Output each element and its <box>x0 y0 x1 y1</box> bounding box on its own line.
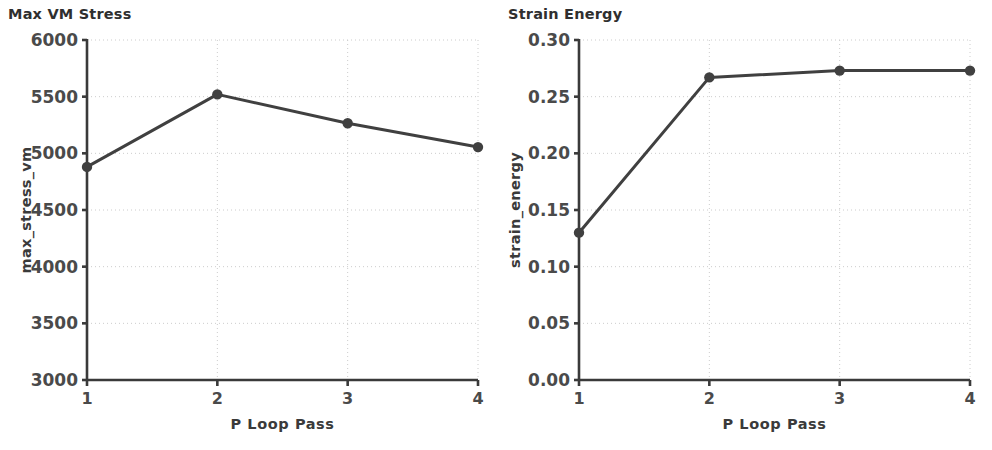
y-axis-tick-label: 3500 <box>31 313 78 333</box>
y-axis-tick-label: 3000 <box>31 370 78 390</box>
plot-area-right: 0.000.050.100.150.200.250.301234P Loop P… <box>579 40 970 380</box>
y-axis-tick-label: 0.15 <box>528 200 570 220</box>
data-point-marker <box>704 72 714 82</box>
data-series-line <box>87 94 478 167</box>
chart-title-right: Strain Energy <box>508 6 622 22</box>
data-point-marker <box>834 65 844 75</box>
data-point-marker <box>965 65 975 75</box>
y-axis-tick-label: 5000 <box>31 143 78 163</box>
x-axis-tick-label: 3 <box>342 389 353 408</box>
x-axis-title: P Loop Pass <box>230 416 334 432</box>
y-axis-tick-label: 4500 <box>31 200 78 220</box>
y-axis-tick-label: 6000 <box>31 30 78 50</box>
data-point-marker <box>342 118 352 128</box>
chart-panel-max-vm-stress: Max VM Stress 30003500400045005000550060… <box>0 0 496 450</box>
y-axis-tick-label: 0.10 <box>528 257 570 277</box>
y-axis-title: strain_energy <box>507 152 523 268</box>
data-point-marker <box>212 89 222 99</box>
y-axis-tick-label: 0.00 <box>528 370 570 390</box>
data-point-marker <box>473 142 483 152</box>
chart-panel-strain-energy: Strain Energy 0.000.050.100.150.200.250.… <box>496 0 992 450</box>
x-axis-tick-label: 4 <box>964 389 975 408</box>
chart-canvas-1 <box>579 40 984 394</box>
figure-canvas: Max VM Stress 30003500400045005000550060… <box>0 0 992 450</box>
y-axis-tick-label: 0.25 <box>528 87 570 107</box>
plot-area-left: 30003500400045005000550060001234P Loop P… <box>87 40 478 380</box>
x-axis-tick-label: 2 <box>704 389 715 408</box>
data-point-marker <box>574 227 584 237</box>
chart-canvas-0 <box>87 40 492 394</box>
y-axis-tick-label: 4000 <box>31 257 78 277</box>
x-axis-tick-label: 1 <box>573 389 584 408</box>
data-series-line <box>579 71 970 233</box>
y-axis-title: max_stress_vm <box>17 146 33 273</box>
x-axis-tick-label: 2 <box>212 389 223 408</box>
y-axis-tick-label: 5500 <box>31 87 78 107</box>
y-axis-tick-label: 0.20 <box>528 143 570 163</box>
data-point-marker <box>82 162 92 172</box>
x-axis-tick-label: 1 <box>81 389 92 408</box>
y-axis-tick-label: 0.30 <box>528 30 570 50</box>
x-axis-tick-label: 3 <box>834 389 845 408</box>
x-axis-tick-label: 4 <box>472 389 483 408</box>
chart-title-left: Max VM Stress <box>8 6 132 22</box>
x-axis-title: P Loop Pass <box>722 416 826 432</box>
y-axis-tick-label: 0.05 <box>528 313 570 333</box>
